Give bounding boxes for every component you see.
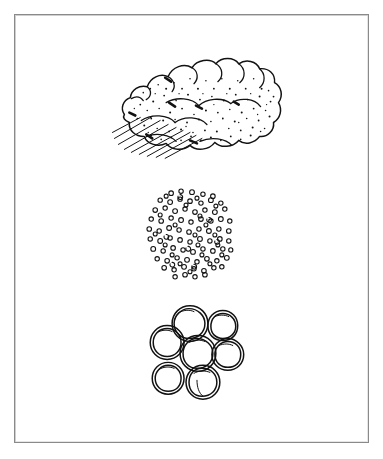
- pebble-facet-lines: [157, 310, 233, 396]
- scan-border-frame: [14, 14, 369, 443]
- pebble-mid-left: [150, 326, 184, 360]
- coarse-pebble-cluster: [150, 306, 243, 400]
- ground-hatch-lines: [112, 117, 201, 159]
- fine-grain-rings: [147, 189, 233, 279]
- figure-page: [0, 0, 383, 459]
- rough-rock-mass: [112, 59, 281, 159]
- illustration-canvas: [15, 15, 368, 442]
- rock-crevice-accents: [129, 78, 238, 144]
- rock-inner-contours: [131, 64, 264, 146]
- fine-grained-aggregate-disc: [147, 189, 233, 279]
- pebble-mid-right: [212, 338, 244, 370]
